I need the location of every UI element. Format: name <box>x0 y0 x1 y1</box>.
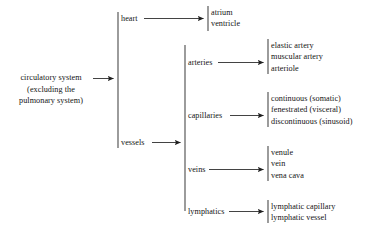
leaf-vena-cava: vena cava <box>271 170 304 182</box>
node-circulatory-system: circulatory system (excluding the pulmon… <box>8 72 94 107</box>
leaf-vein: vein <box>271 158 304 170</box>
node-lymphatics: lymphatics <box>188 206 224 218</box>
group-arteries-leaves: elastic artery muscular artery arteriole <box>271 40 323 75</box>
circulatory-system-diagram: circulatory system (excluding the pulmon… <box>0 0 391 240</box>
node-heart: heart <box>121 13 138 25</box>
leaf-continuous-somatic: continuous (somatic) <box>271 93 352 105</box>
leaf-venule: venule <box>271 147 304 159</box>
leaf-elastic-artery: elastic artery <box>271 40 323 52</box>
node-circulatory-system-line3: pulmonary system) <box>8 95 94 107</box>
group-veins-leaves: venule vein vena cava <box>271 147 304 182</box>
node-vessels: vessels <box>121 137 145 149</box>
node-veins: veins <box>188 164 206 176</box>
group-capillaries-leaves: continuous (somatic) fenestrated (viscer… <box>271 93 352 128</box>
leaf-discontinuous-sinusoid: discontinuous (sinusoid) <box>271 116 352 128</box>
leaf-lymphatic-capillary: lymphatic capillary <box>271 201 335 213</box>
leaf-lymphatic-vessel: lymphatic vessel <box>271 212 335 224</box>
leaf-atrium: atrium <box>211 7 240 19</box>
node-circulatory-system-line2: (excluding the <box>8 84 94 96</box>
node-circulatory-system-line1: circulatory system <box>8 72 94 84</box>
leaf-arteriole: arteriole <box>271 63 323 75</box>
node-arteries: arteries <box>188 57 213 69</box>
group-lymphatics-leaves: lymphatic capillary lymphatic vessel <box>271 201 335 225</box>
leaf-ventricle: ventricle <box>211 18 240 30</box>
leaf-muscular-artery: muscular artery <box>271 51 323 63</box>
group-heart-chambers: atrium ventricle <box>211 7 240 31</box>
leaf-fenestrated-visceral: fenestrated (visceral) <box>271 104 352 116</box>
node-capillaries: capillaries <box>188 110 222 122</box>
